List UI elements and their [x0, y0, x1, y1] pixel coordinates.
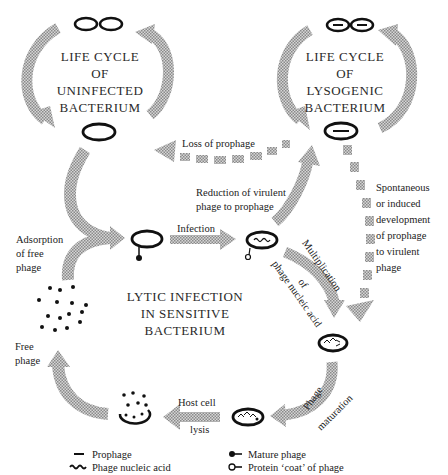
spontaneous-arrow — [343, 145, 375, 322]
adsorbed-cell — [132, 231, 162, 261]
release-arrow — [47, 350, 108, 414]
legend-protein-coat: Protein ‘coat’ of phage — [248, 461, 344, 474]
protein-coat-icon — [229, 464, 242, 470]
label-spontaneous: Spontaneous or induced development of pr… — [376, 180, 430, 276]
mature-phage-icon — [229, 451, 242, 457]
phage-nucleic-acid-icon — [70, 466, 86, 469]
label-host-cell: Host cell — [178, 396, 216, 410]
label-loss-of-prophage: Loss of prophage — [182, 137, 255, 151]
legend-phage-nucleic-acid: Phage nucleic acid — [92, 461, 171, 474]
uninfected-dividing-cells — [75, 18, 122, 30]
lysogenic-dividing-cells — [327, 19, 373, 31]
lysogenic-cell — [325, 123, 357, 139]
title-lytic: LYTIC INFECTION IN SENSITIVE BACTERIUM — [120, 288, 250, 339]
free-phage-cluster — [37, 285, 88, 332]
label-adsorption: Adsorption of free phage — [16, 233, 63, 275]
adsorption-arrow — [68, 150, 125, 280]
label-free-phage: Free phage — [15, 340, 40, 368]
legend-mature-phage: Mature phage — [248, 448, 306, 461]
label-reduction: Reduction of virulent phage to prophage — [196, 186, 286, 214]
maturing-cell — [233, 409, 263, 425]
lysing-cell — [120, 391, 150, 423]
title-uninfected: LIFE CYCLE OF UNINFECTED BACTERIUM — [52, 48, 148, 116]
multiplying-cell — [319, 335, 347, 351]
legend-prophage: Prophage — [92, 448, 132, 461]
title-lysogenic: LIFE CYCLE OF LYSOGENIC BACTERIUM — [297, 48, 393, 116]
label-infection: Infection — [177, 222, 215, 236]
label-lysis: lysis — [190, 423, 209, 437]
infected-cell — [246, 232, 278, 260]
uninfected-cell — [83, 124, 115, 140]
